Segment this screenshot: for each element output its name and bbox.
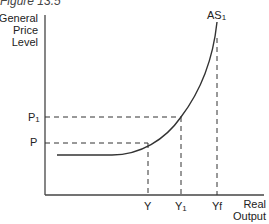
output-label-y1: Y1 — [175, 200, 187, 213]
price-label-p: P — [30, 136, 37, 148]
output-label-y: Y — [144, 200, 152, 212]
y-axis-label-line-1: General — [0, 12, 38, 24]
aggregate-supply-diagram: General Price Level Real Output AS1 P1 P… — [0, 0, 269, 224]
y-axis-label-line-2: Price — [13, 24, 38, 36]
y-axis-label-line-3: Level — [12, 36, 38, 48]
as1-curve — [57, 22, 217, 155]
price-label-p1: P1 — [28, 111, 40, 124]
x-axis-label-line-2: Output — [233, 210, 266, 222]
output-label-yf: Yf — [212, 200, 222, 212]
x-axis-label-line-1: Real — [243, 198, 266, 210]
as1-label: AS1 — [207, 9, 227, 22]
